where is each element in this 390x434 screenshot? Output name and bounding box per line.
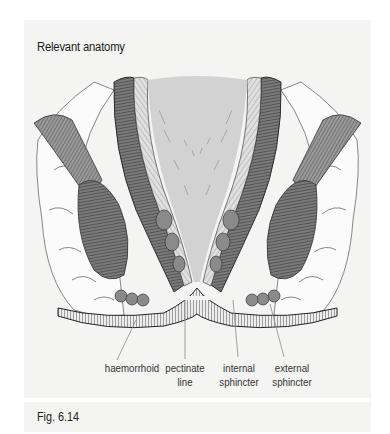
figure-caption: Fig. 6.14 [37,410,79,424]
figure-panel: Relevant anatomy [24,20,371,398]
anal-verge-highlight [184,296,210,300]
label-external-sphincter: external sphincter [270,361,314,389]
anatomy-illustration [24,20,371,398]
label-haemorrhoid: haemorrhoid [104,361,160,375]
label-pectinate-line: pectinate line [163,361,207,389]
caption-bar: Fig. 6.14 [24,402,371,432]
label-internal-sphincter: internal sphincter [217,361,261,389]
leader-internal-sphincter [233,300,238,357]
